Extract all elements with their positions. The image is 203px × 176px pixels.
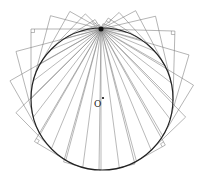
center-dot xyxy=(102,97,104,99)
center-label: O xyxy=(94,99,101,109)
construction-line xyxy=(33,16,50,81)
pole-point xyxy=(99,27,104,32)
construction-line xyxy=(101,29,136,161)
construction-line xyxy=(101,29,151,150)
construction-line xyxy=(101,29,135,164)
construction-line xyxy=(161,142,164,144)
construction-line xyxy=(36,139,39,141)
construction-line xyxy=(40,29,101,134)
chord-rays xyxy=(31,29,173,170)
construction-line xyxy=(37,140,39,143)
construction-line xyxy=(173,31,175,101)
construction-line xyxy=(101,29,163,136)
construction-line xyxy=(170,55,189,119)
construction-line xyxy=(66,29,101,160)
geometry-diagram: O xyxy=(0,0,203,176)
construction-line xyxy=(101,29,165,145)
construction-line xyxy=(161,144,163,147)
construction-line xyxy=(51,29,101,149)
